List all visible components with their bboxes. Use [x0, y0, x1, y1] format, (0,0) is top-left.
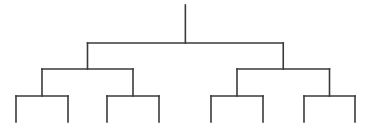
binary-tree-diagram: [0, 0, 371, 133]
